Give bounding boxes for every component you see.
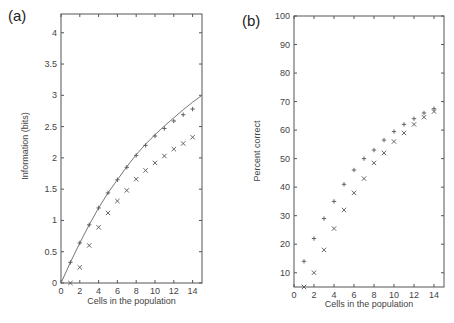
y-tick-label: 2.5 (44, 122, 57, 132)
cross-marker (162, 154, 166, 158)
plus-marker (78, 241, 82, 245)
y-tick-label: 100 (275, 11, 290, 21)
cross-marker (342, 208, 346, 212)
cross-marker (382, 151, 386, 155)
plot-area-b: 02468101214102030405060708090100 (227, 0, 454, 323)
plus-marker (181, 113, 185, 117)
y-tick-label: 1 (52, 215, 57, 225)
y-tick-label: 70 (280, 97, 290, 107)
fit-curve (61, 95, 202, 283)
cross-marker (87, 243, 91, 247)
cross-marker (362, 176, 366, 180)
plus-marker (332, 199, 336, 203)
cross-marker (322, 248, 326, 252)
x-tick-label: 14 (429, 290, 439, 300)
y-tick-label: 20 (280, 239, 290, 249)
chart-panel-a: (a) Information (bits) Cells in the popu… (0, 0, 227, 323)
plus-marker (143, 143, 147, 147)
y-tick-label: 40 (280, 182, 290, 192)
y-tick-label: 80 (280, 68, 290, 78)
plus-marker (392, 129, 396, 133)
plus-marker (382, 138, 386, 142)
x-tick-label: 2 (77, 286, 82, 296)
cross-marker (143, 168, 147, 172)
plus-marker (342, 182, 346, 186)
plot-frame (294, 16, 444, 287)
chart-panel-b: (b) Percent correct Cells in the populat… (227, 0, 454, 323)
plot-area-a: 0246810121400.511.522.533.54 (0, 0, 227, 323)
cross-marker (153, 161, 157, 165)
cross-marker (125, 188, 129, 192)
cross-marker (422, 115, 426, 119)
plus-marker (312, 236, 316, 240)
x-tick-label: 6 (115, 286, 120, 296)
cross-marker (352, 191, 356, 195)
plus-marker (402, 122, 406, 126)
x-tick-label: 12 (409, 290, 419, 300)
cross-marker (332, 226, 336, 230)
x-tick-label: 14 (188, 286, 198, 296)
cross-marker (134, 177, 138, 181)
plus-marker (68, 260, 72, 264)
y-tick-label: 4 (52, 28, 57, 38)
y-tick-label: 10 (280, 268, 290, 278)
y-tick-label: 0.5 (44, 247, 57, 257)
x-tick-label: 10 (389, 290, 399, 300)
cross-marker (402, 131, 406, 135)
cross-marker (172, 147, 176, 151)
x-tick-label: 0 (291, 290, 296, 300)
cross-marker (78, 265, 82, 269)
plus-marker (302, 259, 306, 263)
cross-marker (115, 199, 119, 203)
x-tick-label: 8 (134, 286, 139, 296)
cross-marker (96, 225, 100, 229)
plus-marker (362, 156, 366, 160)
cross-marker (106, 211, 110, 215)
plus-marker (412, 116, 416, 120)
x-tick-label: 8 (371, 290, 376, 300)
plus-marker (153, 134, 157, 138)
plus-marker (372, 148, 376, 152)
plus-marker (322, 216, 326, 220)
y-tick-label: 90 (280, 40, 290, 50)
plus-marker (87, 223, 91, 227)
y-tick-label: 50 (280, 154, 290, 164)
plot-frame (61, 14, 202, 283)
x-tick-label: 6 (351, 290, 356, 300)
y-tick-label: 1.5 (44, 184, 57, 194)
plus-marker (190, 107, 194, 111)
x-tick-label: 0 (58, 286, 63, 296)
cross-marker (312, 271, 316, 275)
x-tick-label: 4 (331, 290, 336, 300)
cross-marker (181, 141, 185, 145)
y-tick-label: 30 (280, 211, 290, 221)
cross-marker (190, 135, 194, 139)
y-tick-label: 3.5 (44, 59, 57, 69)
plus-marker (352, 168, 356, 172)
cross-marker (412, 122, 416, 126)
y-tick-label: 2 (52, 153, 57, 163)
x-tick-label: 12 (169, 286, 179, 296)
x-tick-label: 10 (150, 286, 160, 296)
y-tick-label: 0 (52, 278, 57, 288)
cross-marker (372, 161, 376, 165)
x-tick-label: 4 (96, 286, 101, 296)
plus-marker (422, 111, 426, 115)
x-tick-label: 2 (311, 290, 316, 300)
cross-marker (392, 139, 396, 143)
y-tick-label: 3 (52, 90, 57, 100)
y-tick-label: 60 (280, 125, 290, 135)
